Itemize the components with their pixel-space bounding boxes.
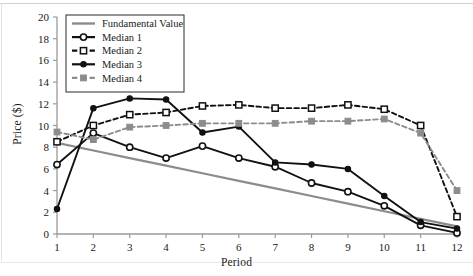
marker-filled-circle (345, 166, 350, 171)
marker-filled-circle (163, 97, 168, 102)
marker-open-circle (308, 180, 314, 186)
marker-filled-circle (272, 160, 277, 165)
marker-open-square (163, 109, 169, 115)
legend-label-4: Median 4 (102, 73, 143, 84)
series-fundamental-value (57, 143, 457, 227)
series-median-2 (54, 102, 460, 220)
marker-filled-square (236, 120, 242, 126)
legend-marker-filled-square (81, 75, 87, 81)
marker-open-square (381, 106, 387, 112)
y-tick-label-10: 10 (38, 120, 50, 132)
marker-open-square (272, 105, 278, 111)
legend-marker-open-circle (80, 34, 86, 40)
marker-filled-square (163, 123, 169, 129)
marker-open-square (418, 122, 424, 128)
marker-filled-circle (418, 219, 423, 224)
marker-filled-square (90, 137, 96, 143)
marker-open-circle (127, 144, 133, 150)
marker-filled-circle (309, 162, 314, 167)
marker-filled-square (54, 129, 60, 135)
marker-open-circle (199, 143, 205, 149)
marker-open-circle (90, 130, 96, 136)
marker-filled-square (200, 120, 206, 126)
x-tick-label-6: 6 (236, 241, 242, 253)
marker-open-circle (381, 203, 387, 209)
x-tick-label-11: 11 (415, 241, 426, 253)
y-tick-label-12: 12 (38, 98, 49, 110)
marker-open-square (308, 105, 314, 111)
marker-open-square (236, 102, 242, 108)
x-tick-label-8: 8 (309, 241, 315, 253)
marker-filled-square (418, 130, 424, 136)
marker-filled-square (127, 124, 133, 130)
x-tick-label-2: 2 (91, 241, 97, 253)
line-chart-canvas: 02468101214161820123456789101112Fundamen… (0, 0, 473, 276)
marker-filled-square (309, 118, 315, 124)
marker-filled-square (345, 118, 351, 124)
marker-open-square (127, 112, 133, 118)
marker-open-square (454, 214, 460, 220)
marker-filled-square (454, 188, 460, 194)
legend-label-3: Median 3 (102, 59, 142, 70)
y-tick-label-18: 18 (38, 33, 50, 45)
marker-filled-circle (454, 226, 459, 231)
x-tick-label-3: 3 (127, 241, 133, 253)
marker-filled-circle (91, 105, 96, 110)
plot-area: 02468101214161820123456789101112Fundamen… (0, 0, 473, 276)
marker-filled-circle (127, 96, 132, 101)
series-line-1 (57, 133, 457, 233)
series-median-1 (54, 130, 460, 236)
y-axis-title: Price ($) (11, 84, 23, 164)
y-tick-label-20: 20 (38, 11, 50, 23)
marker-filled-square (381, 116, 387, 122)
legend-marker-open-square (80, 48, 86, 54)
legend: Fundamental ValueMedian 1Median 2Median … (66, 15, 184, 92)
x-tick-label-4: 4 (163, 241, 169, 253)
y-tick-label-6: 6 (44, 163, 50, 175)
marker-open-circle (236, 155, 242, 161)
marker-open-square (54, 139, 60, 145)
series-line-2 (57, 105, 457, 217)
marker-open-circle (54, 161, 60, 167)
marker-open-circle (163, 155, 169, 161)
legend-label-0: Fundamental Value (102, 18, 184, 29)
x-tick-label-9: 9 (345, 241, 351, 253)
legend-label-2: Median 2 (102, 45, 142, 56)
marker-filled-circle (200, 130, 205, 135)
chart-figure: 02468101214161820123456789101112Fundamen… (0, 0, 473, 276)
legend-marker-filled-circle (81, 62, 86, 67)
legend-label-1: Median 1 (102, 32, 142, 43)
x-axis-title: Period (0, 256, 473, 268)
x-tick-label-10: 10 (379, 241, 391, 253)
y-tick-label-8: 8 (44, 141, 50, 153)
x-tick-label-5: 5 (200, 241, 206, 253)
marker-open-square (90, 122, 96, 128)
marker-open-circle (345, 189, 351, 195)
marker-filled-square (272, 120, 278, 126)
marker-filled-circle (54, 206, 59, 211)
x-tick-label-12: 12 (452, 241, 463, 253)
marker-open-square (345, 102, 351, 108)
y-tick-label-0: 0 (44, 228, 50, 240)
y-tick-label-14: 14 (38, 76, 50, 88)
x-tick-label-7: 7 (272, 241, 278, 253)
y-tick-label-4: 4 (44, 185, 50, 197)
y-tick-label-2: 2 (44, 206, 50, 218)
series-line-0 (57, 143, 457, 227)
marker-filled-circle (382, 193, 387, 198)
marker-open-square (199, 103, 205, 109)
y-tick-label-16: 16 (38, 54, 50, 66)
x-tick-label-1: 1 (54, 241, 60, 253)
